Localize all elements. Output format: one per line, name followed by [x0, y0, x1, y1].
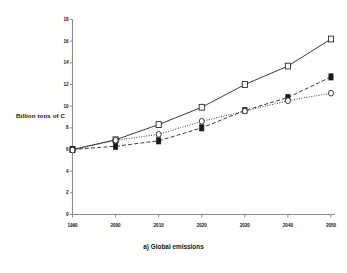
data-point-filled-square-dashed-2050 [329, 74, 333, 80]
data-point-open-circle-dotted-1990 [70, 147, 75, 153]
data-point-open-circle-dotted-2050 [329, 90, 334, 96]
data-point-open-square-solid-2030 [242, 82, 247, 88]
data-point-open-circle-dotted-2030 [242, 108, 247, 114]
chart-figure: Billion tons of C 024681012141618 199020… [0, 0, 347, 273]
chart-caption: a) Global emissions [0, 243, 347, 250]
data-point-filled-square-dashed-2020 [200, 125, 204, 131]
data-point-open-square-solid-2040 [285, 63, 290, 69]
data-point-filled-square-dashed-2010 [157, 138, 161, 144]
series-line-filled-square-dashed [73, 77, 332, 150]
plot-area [0, 0, 347, 273]
data-point-open-circle-dotted-2040 [285, 98, 290, 104]
data-point-open-circle-dotted-2010 [156, 131, 161, 137]
data-point-open-square-solid-2020 [199, 104, 204, 110]
data-point-filled-square-dashed-2000 [113, 143, 117, 149]
data-point-open-square-solid-2010 [156, 122, 161, 128]
data-point-open-circle-dotted-2020 [199, 118, 204, 124]
data-point-open-square-solid-2050 [328, 36, 333, 42]
series-line-open-square-solid [73, 39, 332, 150]
data-point-open-circle-dotted-2000 [113, 137, 118, 143]
